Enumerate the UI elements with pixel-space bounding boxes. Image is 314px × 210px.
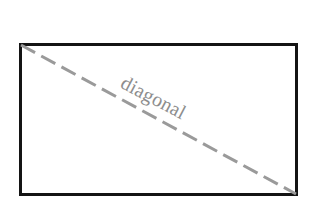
rectangle-shape — [19, 43, 298, 196]
diagram-canvas: diagonal — [0, 0, 314, 210]
